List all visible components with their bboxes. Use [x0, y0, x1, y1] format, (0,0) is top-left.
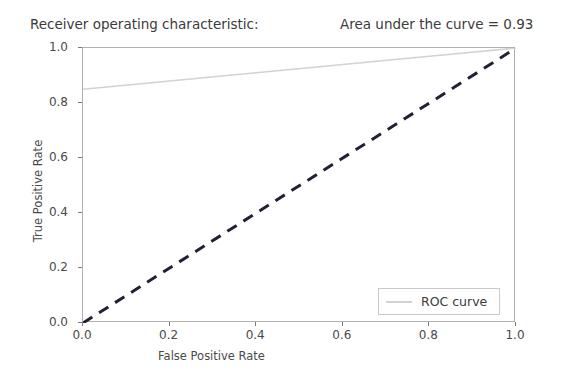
x-tick-mark: [515, 322, 516, 326]
y-tick-mark: [78, 102, 82, 103]
y-tick-label: 0.4: [49, 205, 68, 219]
y-tick-mark: [78, 47, 82, 48]
y-tick-mark: [78, 157, 82, 158]
y-tick-label: 0.2: [49, 260, 68, 274]
x-tick-label: 0.8: [419, 328, 438, 342]
x-tick-label: 0.2: [159, 328, 178, 342]
x-tick-label: 0.6: [332, 328, 351, 342]
x-tick-mark: [428, 322, 429, 326]
x-axis-label: False Positive Rate: [0, 349, 575, 363]
x-tick-label: 0.4: [246, 328, 265, 342]
x-tick-mark: [342, 322, 343, 326]
y-axis-label: True Positive Rate: [31, 91, 45, 291]
chance-diagonal-line: [83, 48, 516, 323]
x-tick-mark: [169, 322, 170, 326]
chart-title: Receiver operating characteristic:: [30, 16, 259, 32]
x-tick-mark: [255, 322, 256, 326]
y-tick-label: 0.0: [49, 315, 68, 329]
auc-annotation: Area under the curve = 0.93: [340, 16, 533, 32]
plot-area: [82, 47, 515, 322]
plot-canvas: [83, 48, 516, 323]
x-tick-label: 0.0: [72, 328, 91, 342]
y-tick-mark: [78, 267, 82, 268]
y-tick-label: 1.0: [49, 40, 68, 54]
chart-legend: ROC curve: [378, 288, 500, 315]
x-tick-mark: [82, 322, 83, 326]
y-tick-mark: [78, 212, 82, 213]
y-tick-label: 0.8: [49, 95, 68, 109]
legend-label-roc-curve: ROC curve: [421, 294, 487, 309]
roc-chart-figure: Receiver operating characteristic: Area …: [0, 0, 575, 382]
roc-curve-line: [83, 48, 516, 89]
y-tick-label: 0.6: [49, 150, 68, 164]
legend-line-swatch: [386, 301, 412, 303]
x-tick-label: 1.0: [505, 328, 524, 342]
